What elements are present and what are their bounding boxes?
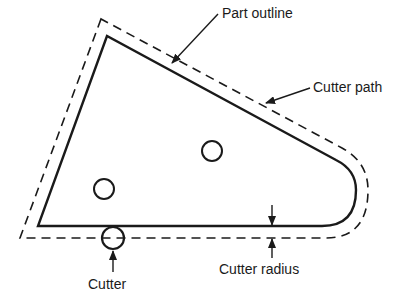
hole-upper (202, 141, 222, 161)
diagram-canvas (0, 0, 410, 302)
part-outline-leader (172, 14, 218, 63)
hole-lower (94, 179, 114, 199)
label-cutter-path: Cutter path (313, 80, 382, 94)
cutter-path-leader (266, 88, 310, 103)
label-part-outline: Part outline (222, 6, 293, 20)
label-cutter: Cutter (88, 277, 126, 291)
part-outline (38, 36, 356, 226)
label-cutter-radius: Cutter radius (219, 262, 299, 276)
